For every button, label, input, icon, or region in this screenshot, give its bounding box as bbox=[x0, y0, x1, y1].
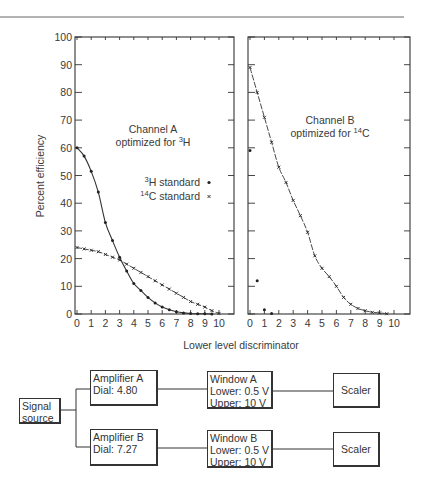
right-annotation-line1: Channel B bbox=[305, 114, 354, 126]
x-tick-label: 0 bbox=[74, 317, 80, 329]
data-point-14c bbox=[161, 283, 164, 286]
left-annotation-line2: optimized for 3H bbox=[116, 135, 191, 148]
series-14c-curve bbox=[77, 248, 219, 314]
scaler-b-label: Scaler bbox=[341, 443, 371, 455]
data-point-14c bbox=[328, 275, 331, 278]
y-tick-label: 90 bbox=[60, 59, 72, 71]
y-tick-label: 0 bbox=[66, 308, 72, 320]
window-a-title: Window A bbox=[210, 373, 269, 385]
series-3h-curve bbox=[77, 148, 212, 314]
x-tick-label: 3 bbox=[117, 317, 123, 329]
data-point-3h bbox=[196, 312, 199, 315]
y-tick-label: 30 bbox=[60, 225, 72, 237]
data-point-3h bbox=[139, 289, 142, 292]
x-tick-label: 4 bbox=[131, 317, 137, 329]
data-point-3h bbox=[76, 146, 79, 149]
x-tick-label: 10 bbox=[213, 317, 225, 329]
data-point-3h bbox=[210, 313, 213, 316]
y-tick-label: 50 bbox=[60, 170, 72, 182]
x-tick-label: 9 bbox=[202, 317, 208, 329]
data-point-3h bbox=[189, 312, 192, 315]
data-point-14c bbox=[125, 263, 128, 266]
legend-3h-label: 3H standard bbox=[144, 175, 200, 188]
x-tick-label: 3 bbox=[290, 317, 296, 329]
data-point-14c bbox=[349, 303, 352, 306]
y-tick-label: 40 bbox=[60, 197, 72, 209]
data-point-3h bbox=[249, 149, 252, 152]
data-point-3h bbox=[111, 239, 114, 242]
data-point-14c bbox=[139, 271, 142, 274]
scaler-a-box: Scaler bbox=[333, 373, 380, 408]
data-point-14c bbox=[154, 279, 157, 282]
legend-dot-marker-icon bbox=[207, 181, 210, 184]
data-point-3h bbox=[154, 301, 157, 304]
x-tick-label: 10 bbox=[388, 317, 400, 329]
x-tick-label: 2 bbox=[102, 317, 108, 329]
left-annotation-line1: Channel A bbox=[129, 123, 177, 135]
x-tick-label: 8 bbox=[362, 317, 368, 329]
data-point-3h bbox=[161, 306, 164, 309]
x-tick-label: 1 bbox=[261, 317, 267, 329]
data-point-14c bbox=[342, 296, 345, 299]
data-point-14c bbox=[175, 292, 178, 295]
data-point-14c bbox=[321, 267, 324, 270]
x-tick-label: 7 bbox=[173, 317, 179, 329]
x-tick-label: 5 bbox=[319, 317, 325, 329]
data-point-3h bbox=[270, 312, 273, 315]
window-b-title: Window B bbox=[210, 432, 269, 444]
window-a-upper: Upper: 10 V bbox=[210, 397, 269, 409]
data-point-3h bbox=[203, 312, 206, 315]
x-tick-label: 9 bbox=[377, 317, 383, 329]
series-14c-curve bbox=[250, 67, 387, 313]
y-tick-label: 80 bbox=[60, 86, 72, 98]
data-point-3h bbox=[83, 155, 86, 158]
x-tick-label: 0 bbox=[247, 317, 253, 329]
data-point-3h bbox=[182, 311, 185, 314]
x-tick-label: 7 bbox=[348, 317, 354, 329]
y-axis-title: Percent efficiency bbox=[34, 134, 46, 217]
scaler-a-label: Scaler bbox=[341, 384, 371, 396]
amplifier-a-box: Amplifier A Dial: 4.80 bbox=[90, 370, 158, 406]
data-point-3h bbox=[147, 296, 150, 299]
data-point-3h bbox=[104, 221, 107, 224]
legend-x-marker-icon bbox=[208, 195, 211, 198]
efficiency-chart: 0123456789100102030405060708090100 01234… bbox=[0, 0, 428, 370]
data-point-3h bbox=[97, 191, 100, 194]
data-point-3h bbox=[256, 279, 259, 282]
plot-frame bbox=[248, 37, 410, 314]
window-b-box: Window B Lower: 0.5 V Upper: 10 V bbox=[207, 430, 273, 468]
data-point-3h bbox=[175, 310, 178, 313]
amplifier-b-box: Amplifier B Dial: 7.27 bbox=[90, 429, 158, 466]
amplifier-b-title: Amplifier B bbox=[93, 431, 154, 443]
x-tick-label: 8 bbox=[188, 317, 194, 329]
data-point-3h bbox=[132, 282, 135, 285]
y-tick-label: 10 bbox=[60, 280, 72, 292]
data-point-14c bbox=[182, 296, 185, 299]
right-panel-channel-b: 012345678910 bbox=[247, 37, 410, 329]
window-b-lower: Lower: 0.5 V bbox=[210, 444, 269, 456]
y-tick-label: 60 bbox=[60, 142, 72, 154]
data-point-14c bbox=[147, 275, 150, 278]
window-a-box: Window A Lower: 0.5 V Upper: 10 V bbox=[207, 371, 273, 409]
right-annotation-line2: optimized for 14C bbox=[291, 126, 370, 139]
y-tick-label: 20 bbox=[60, 253, 72, 265]
data-point-3h bbox=[118, 256, 121, 259]
data-point-3h bbox=[125, 270, 128, 273]
data-point-3h bbox=[263, 308, 266, 311]
amplifier-a-title: Amplifier A bbox=[93, 372, 154, 384]
x-tick-label: 4 bbox=[305, 317, 311, 329]
data-point-3h bbox=[168, 308, 171, 311]
scaler-b-box: Scaler bbox=[333, 432, 380, 467]
x-tick-label: 2 bbox=[276, 317, 282, 329]
window-a-lower: Lower: 0.5 V bbox=[210, 385, 269, 397]
legend-14c-label: 14C standard bbox=[140, 189, 200, 202]
data-point-14c bbox=[168, 288, 171, 291]
amplifier-a-dial: Dial: 4.80 bbox=[93, 384, 154, 396]
signal-source-box: Signal source bbox=[19, 398, 61, 424]
amplifier-b-dial: Dial: 7.27 bbox=[93, 443, 154, 455]
legend: 3H standard 14C standard bbox=[140, 175, 210, 202]
x-axis-title: Lower level discriminator bbox=[183, 339, 299, 351]
x-tick-label: 5 bbox=[145, 317, 151, 329]
data-point-14c bbox=[132, 267, 135, 270]
data-point-14c bbox=[335, 285, 338, 288]
